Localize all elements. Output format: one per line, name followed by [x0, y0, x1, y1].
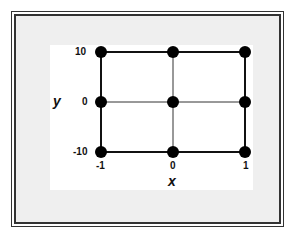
point-marker: [167, 96, 179, 108]
point-marker: [167, 146, 179, 158]
point-marker: [167, 46, 179, 58]
y-tick-label: 10: [75, 47, 86, 57]
x-tick-label: 1: [243, 161, 249, 171]
point-marker: [239, 46, 251, 58]
grid-diagram: [0, 0, 295, 236]
point-marker: [239, 96, 251, 108]
x-tick-label: 0: [170, 161, 176, 171]
x-tick-label: -1: [96, 161, 105, 171]
x-axis-title: x: [168, 174, 176, 188]
point-marker: [95, 146, 107, 158]
y-tick-label: 0: [82, 97, 88, 107]
point-marker: [95, 96, 107, 108]
point-marker: [95, 46, 107, 58]
point-marker: [239, 146, 251, 158]
y-axis-title: y: [53, 94, 61, 108]
y-tick-label: -10: [73, 147, 87, 157]
